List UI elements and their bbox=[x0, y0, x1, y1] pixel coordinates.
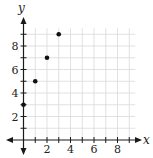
y-axis-down-arrow-icon bbox=[21, 148, 27, 155]
y-axis-label: y bbox=[17, 1, 25, 15]
data-point bbox=[33, 79, 38, 84]
axis-ticks bbox=[21, 34, 130, 143]
x-tick-label: 8 bbox=[114, 143, 121, 156]
y-tick-label: 2 bbox=[12, 111, 19, 124]
grid-lines bbox=[24, 28, 136, 140]
x-axis-left-arrow-icon bbox=[6, 137, 13, 143]
x-tick-label: 6 bbox=[91, 143, 98, 156]
y-tick-label: 8 bbox=[12, 40, 19, 53]
y-tick-label: 4 bbox=[12, 87, 19, 100]
data-point bbox=[21, 102, 26, 107]
x-tick-label: 4 bbox=[67, 143, 74, 156]
x-tick-label: 2 bbox=[44, 143, 51, 156]
x-axis-label: x bbox=[143, 133, 150, 147]
y-axis-up-arrow-icon bbox=[21, 17, 27, 24]
data-point bbox=[56, 32, 61, 37]
data-point bbox=[45, 55, 50, 60]
scatter-chart: 22446688 x y bbox=[0, 0, 153, 158]
y-tick-label: 6 bbox=[12, 64, 19, 77]
x-axis-right-arrow-icon bbox=[135, 137, 142, 143]
axes bbox=[6, 17, 142, 155]
